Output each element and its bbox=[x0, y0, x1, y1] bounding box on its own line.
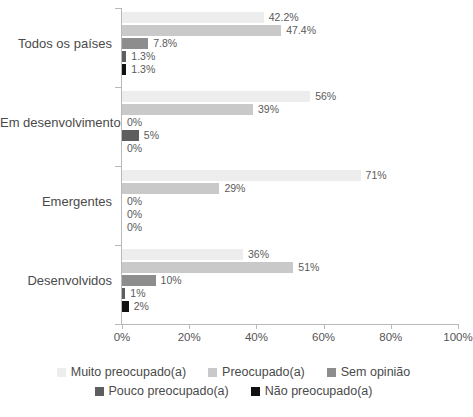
y-axis-notch bbox=[115, 166, 121, 167]
bar-value-label: 5% bbox=[144, 129, 159, 141]
bar-row: 1% bbox=[0, 288, 336, 299]
bar-value-label: 39% bbox=[258, 103, 279, 115]
bar-value-label: 0% bbox=[127, 142, 142, 154]
bar-value-label: 42.2% bbox=[269, 11, 299, 23]
y-axis-notch bbox=[115, 245, 121, 246]
x-axis-tick-label: 0% bbox=[114, 331, 131, 343]
bar-value-label: 7.8% bbox=[153, 37, 177, 49]
legend-swatch-icon bbox=[57, 368, 66, 377]
bar-value-label: 1% bbox=[130, 287, 145, 299]
legend-swatch-icon bbox=[208, 368, 217, 377]
x-axis-tick-label: 20% bbox=[178, 331, 201, 343]
bar-segment bbox=[122, 12, 264, 23]
bar-row: 5% bbox=[0, 130, 336, 141]
bar-segment bbox=[122, 183, 219, 194]
bar-value-label: 0% bbox=[127, 221, 142, 233]
y-axis-notch bbox=[115, 87, 121, 88]
bar-row: 0% bbox=[0, 209, 336, 220]
legend-item[interactable]: Sem opinião bbox=[327, 365, 411, 379]
legend-swatch-icon bbox=[95, 387, 104, 396]
bar-value-label: 0% bbox=[127, 208, 142, 220]
x-axis-tick-label: 40% bbox=[245, 331, 268, 343]
bar-row: 1.3% bbox=[0, 51, 336, 62]
legend-item[interactable]: Pouco preocupado(a) bbox=[95, 384, 229, 398]
legend-row: Pouco preocupado(a)Não preocupado(a) bbox=[0, 384, 467, 398]
y-axis-notch bbox=[115, 324, 121, 325]
bar-segment bbox=[122, 25, 281, 36]
bar-row: 36% bbox=[0, 249, 336, 260]
bar-row: 42.2% bbox=[0, 12, 336, 23]
x-axis-tick-label: 100% bbox=[443, 331, 472, 343]
legend-label: Muito preocupado(a) bbox=[71, 365, 186, 379]
bar-segment bbox=[122, 51, 126, 62]
legend-row: Muito preocupado(a)Preocupado(a)Sem opin… bbox=[0, 365, 467, 379]
bar-value-label: 47.4% bbox=[286, 24, 316, 36]
category-label: Todos os países bbox=[0, 36, 112, 51]
bar-segment bbox=[122, 275, 156, 286]
bar-row: 1.3% bbox=[0, 64, 336, 75]
bar-value-label: 1.3% bbox=[131, 50, 155, 62]
legend-swatch-icon bbox=[251, 387, 260, 396]
bar-value-label: 71% bbox=[366, 169, 387, 181]
bar-row: 56% bbox=[0, 91, 336, 102]
bar-value-label: 2% bbox=[134, 300, 149, 312]
legend-label: Não preocupado(a) bbox=[265, 384, 373, 398]
bar-row: 39% bbox=[0, 104, 336, 115]
bar-segment bbox=[122, 301, 129, 312]
x-axis-tick bbox=[391, 324, 392, 329]
bar-value-label: 51% bbox=[298, 261, 319, 273]
x-axis-line bbox=[121, 324, 458, 325]
category-label: Desenvolvidos bbox=[0, 273, 112, 288]
bar-segment bbox=[122, 38, 148, 49]
x-axis-tick bbox=[458, 324, 459, 329]
x-axis-tick bbox=[189, 324, 190, 329]
x-axis-tick-label: 60% bbox=[312, 331, 335, 343]
legend-label: Pouco preocupado(a) bbox=[109, 384, 229, 398]
category-label: Emergentes bbox=[0, 194, 112, 209]
legend-item[interactable]: Não preocupado(a) bbox=[251, 384, 373, 398]
bar-value-label: 10% bbox=[161, 274, 182, 286]
bar-row: 71% bbox=[0, 170, 336, 181]
bar-segment bbox=[122, 288, 125, 299]
bar-row: 29% bbox=[0, 183, 336, 194]
legend-label: Sem opinião bbox=[341, 365, 411, 379]
bar-row: 51% bbox=[0, 262, 336, 273]
y-axis-notch bbox=[115, 8, 121, 9]
chart-legend: Muito preocupado(a)Preocupado(a)Sem opin… bbox=[0, 365, 467, 403]
bar-segment bbox=[122, 170, 361, 181]
x-axis-tick bbox=[122, 324, 123, 329]
bar-segment bbox=[122, 249, 243, 260]
bar-segment bbox=[122, 91, 310, 102]
x-axis-tick-label: 80% bbox=[379, 331, 402, 343]
bar-segment bbox=[122, 64, 126, 75]
bar-row: 0% bbox=[0, 222, 336, 233]
x-axis-tick bbox=[324, 324, 325, 329]
bar-value-label: 0% bbox=[127, 116, 142, 128]
bar-segment bbox=[122, 130, 139, 141]
bar-segment bbox=[122, 104, 253, 115]
x-axis-tick bbox=[256, 324, 257, 329]
legend-item[interactable]: Preocupado(a) bbox=[208, 365, 305, 379]
bar-row: 47.4% bbox=[0, 25, 336, 36]
bar-row: 0% bbox=[0, 143, 336, 154]
bar-row: 2% bbox=[0, 301, 336, 312]
bar-value-label: 56% bbox=[315, 90, 336, 102]
legend-label: Preocupado(a) bbox=[222, 365, 305, 379]
bar-segment bbox=[122, 262, 293, 273]
bar-value-label: 0% bbox=[127, 195, 142, 207]
legend-swatch-icon bbox=[327, 368, 336, 377]
legend-item[interactable]: Muito preocupado(a) bbox=[57, 365, 186, 379]
category-label: Em desenvolvimento bbox=[0, 115, 112, 130]
bar-value-label: 29% bbox=[224, 182, 245, 194]
bar-value-label: 36% bbox=[248, 248, 269, 260]
bar-value-label: 1.3% bbox=[131, 63, 155, 75]
